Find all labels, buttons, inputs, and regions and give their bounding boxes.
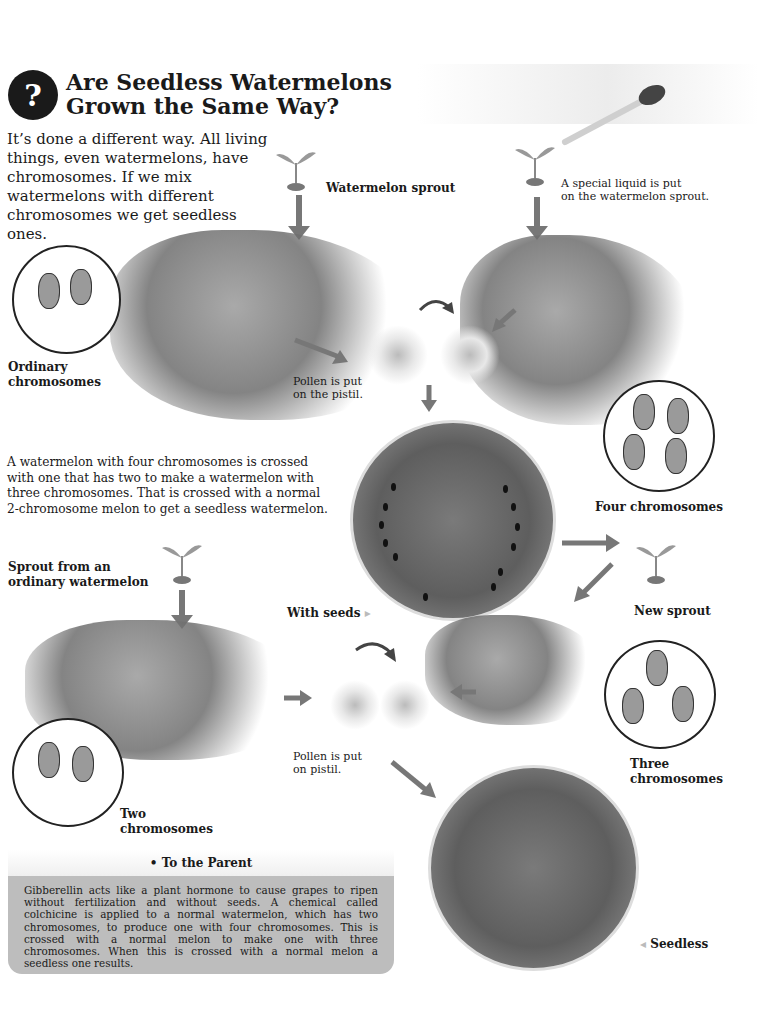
chromosome-bubble-four: [603, 380, 715, 492]
flow-arrows-bottom: [280, 640, 480, 805]
chromosome-figure: [38, 273, 60, 309]
pointer-right-icon: ▸: [365, 606, 371, 620]
label-sprout-ordinary: Sprout from an ordinary watermelon: [8, 560, 148, 590]
label-new-sprout: New sprout: [634, 604, 711, 619]
label-ordinary-chromosomes: Ordinary chromosomes: [8, 360, 101, 390]
sprout-icon: [515, 140, 555, 190]
chromosome-figure: [646, 650, 668, 686]
chromosome-figure: [672, 686, 694, 722]
chromosome-bubble-ordinary: [12, 245, 121, 354]
label-four-chromosomes: Four chromosomes: [595, 500, 723, 515]
flow-arrows-top: [290, 290, 520, 415]
to-the-parent-body: Gibberellin acts like a plant hormone to…: [8, 876, 394, 974]
to-the-parent-heading: • To the Parent: [8, 850, 394, 876]
label-with-seeds: With seeds ▸: [287, 606, 371, 621]
arrow-down: [296, 195, 302, 227]
arrow-down: [534, 197, 540, 227]
chromosome-figure: [38, 742, 60, 778]
question-icon: ?: [8, 70, 58, 120]
title-line-1: Are Seedless Watermelons: [66, 70, 392, 94]
page-title: Are Seedless Watermelons Grown the Same …: [66, 70, 392, 118]
label-three-chromosomes: Three chromosomes: [630, 757, 723, 787]
title-line-2: Grown the Same Way?: [66, 94, 392, 118]
label-two-chromosomes: Two chromosomes: [120, 807, 213, 837]
intro-text: It’s done a different way. All living th…: [7, 130, 277, 244]
chromosome-figure: [667, 398, 689, 434]
to-the-parent-box: • To the Parent Gibberellin acts like a …: [8, 850, 394, 970]
pointer-left-icon: ◂: [640, 937, 646, 951]
chromosome-bubble-two: [12, 718, 124, 827]
sprout-icon: [276, 145, 316, 195]
dropper-icon: [560, 80, 670, 150]
arrow-down: [179, 590, 185, 616]
chromosome-figure: [623, 434, 645, 470]
chromosome-figure: [70, 269, 92, 305]
label-special-liquid: A special liquid is put on the watermelo…: [561, 177, 709, 203]
middle-paragraph: A watermelon with four chromosomes is cr…: [7, 455, 332, 517]
chromosome-figure: [633, 394, 655, 430]
chromosome-figure: [622, 688, 644, 724]
chromosome-bubble-three: [604, 640, 716, 749]
chromosome-figure: [72, 746, 94, 782]
chromosome-figure: [665, 438, 687, 474]
label-seedless: ◂ Seedless: [640, 937, 708, 952]
label-pollen-2: Pollen is put on pistil.: [293, 750, 362, 776]
seedless-watermelon: [428, 765, 639, 971]
label-watermelon-sprout: Watermelon sprout: [326, 181, 455, 196]
sprout-icon: [636, 538, 676, 588]
sprout-icon: [162, 538, 202, 588]
watermelon-with-seeds: [350, 420, 556, 621]
flow-arrows-right: [560, 530, 630, 610]
